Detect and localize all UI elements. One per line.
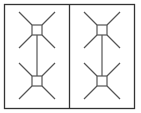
diagonal-arm <box>84 35 97 48</box>
panel-right <box>84 12 120 99</box>
diagonal-arm <box>19 35 32 48</box>
panel-left <box>19 12 55 99</box>
node-square <box>32 25 42 35</box>
diagonal-arm <box>84 86 97 99</box>
diagonal-arm <box>19 86 32 99</box>
diagonal-arm <box>19 12 32 25</box>
diagonal-arm <box>107 63 120 76</box>
diagonal-arm <box>84 63 97 76</box>
diagonal-arm <box>42 63 55 76</box>
diagonal-arm <box>84 12 97 25</box>
diagonal-arm <box>42 12 55 25</box>
node-square <box>97 76 107 86</box>
node-square <box>32 76 42 86</box>
node-square <box>97 25 107 35</box>
diagonal-arm <box>42 86 55 99</box>
diagonal-arm <box>107 86 120 99</box>
diagonal-arm <box>42 35 55 48</box>
diagonal-arm <box>107 35 120 48</box>
diagonal-arm <box>19 63 32 76</box>
diagonal-arm <box>107 12 120 25</box>
two-panel-node-diagram <box>0 0 141 113</box>
